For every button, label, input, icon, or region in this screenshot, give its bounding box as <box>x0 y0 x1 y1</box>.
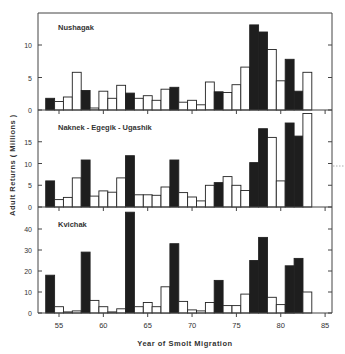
bar-74 <box>223 306 232 313</box>
bar-68 <box>170 160 179 207</box>
bar-57 <box>72 178 81 207</box>
bar-69 <box>179 102 188 110</box>
bar-81 <box>285 59 294 110</box>
bar-81 <box>285 266 294 313</box>
y-tick-label: 0 <box>28 107 32 114</box>
bar-74 <box>223 177 232 207</box>
y-tick-label: 15 <box>24 139 32 146</box>
bar-69 <box>179 193 188 207</box>
bar-62 <box>117 309 126 313</box>
panel-title: Naknek - Egegik - Ugashik <box>58 123 153 132</box>
bar-76 <box>241 67 250 110</box>
y-tick-label: 10 <box>24 161 32 168</box>
bar-78 <box>259 237 268 313</box>
bar-75 <box>232 85 241 110</box>
x-tick-label: 60 <box>99 321 107 330</box>
bar-82 <box>294 136 303 207</box>
x-tick-label: 80 <box>277 321 285 330</box>
panel-title: Kvichak <box>58 220 88 229</box>
bar-59 <box>90 196 99 207</box>
bar-67 <box>161 287 170 313</box>
bar-59 <box>90 300 99 313</box>
y-tick-label: 40 <box>24 226 32 233</box>
bar-54 <box>46 181 55 207</box>
bar-62 <box>117 178 126 207</box>
bar-61 <box>108 98 117 110</box>
bar-60 <box>99 91 108 110</box>
bar-69 <box>179 301 188 313</box>
bar-76 <box>241 191 250 208</box>
bar-77 <box>250 25 259 110</box>
bar-73 <box>214 183 223 207</box>
bar-77 <box>250 163 259 207</box>
bar-66 <box>152 307 161 313</box>
y-tick-label: 0 <box>28 310 32 317</box>
x-tick-label: 55 <box>55 321 63 330</box>
bar-82 <box>294 91 303 110</box>
bar-54 <box>46 98 55 110</box>
x-tick-label: 65 <box>144 321 152 330</box>
bar-71 <box>197 105 206 110</box>
bar-78 <box>259 32 268 110</box>
bar-65 <box>143 303 152 314</box>
bar-79 <box>267 50 276 111</box>
bar-75 <box>232 185 241 207</box>
bar-63 <box>126 156 135 207</box>
bar-80 <box>276 181 285 207</box>
bar-73 <box>214 92 223 110</box>
bar-67 <box>161 187 170 207</box>
chart-canvas: 0510Nushagak051015Naknek - Egegik - Ugas… <box>0 0 345 354</box>
bar-70 <box>188 197 197 207</box>
bar-72 <box>205 185 214 207</box>
bar-66 <box>152 195 161 207</box>
bar-72 <box>205 303 214 314</box>
bar-73 <box>214 280 223 313</box>
bar-83 <box>303 292 312 313</box>
bar-56 <box>63 197 72 207</box>
y-tick-label: 20 <box>24 268 32 275</box>
bar-64 <box>134 98 143 110</box>
bar-78 <box>259 129 268 207</box>
bar-67 <box>161 89 170 110</box>
bar-61 <box>108 192 117 207</box>
bar-55 <box>55 307 64 313</box>
bar-79 <box>267 297 276 313</box>
bar-65 <box>143 195 152 207</box>
bar-54 <box>46 275 55 313</box>
bar-75 <box>232 306 241 313</box>
panel-title: Nushagak <box>58 23 95 32</box>
bar-80 <box>276 305 285 313</box>
bar-58 <box>81 160 90 207</box>
bar-58 <box>81 252 90 313</box>
bar-64 <box>134 307 143 313</box>
bar-65 <box>143 96 152 110</box>
smolt-returns-chart: 0510Nushagak051015Naknek - Egegik - Ugas… <box>0 0 345 354</box>
bar-60 <box>99 191 108 207</box>
y-tick-label: 5 <box>28 75 32 82</box>
bar-83 <box>303 114 312 208</box>
bar-55 <box>55 102 64 111</box>
bar-70 <box>188 100 197 110</box>
y-tick-label: 0 <box>28 204 32 211</box>
bar-66 <box>152 100 161 110</box>
bar-72 <box>205 82 214 110</box>
bar-77 <box>250 261 259 314</box>
bar-80 <box>276 81 285 110</box>
x-tick-label: 85 <box>321 321 329 330</box>
y-tick-label: 30 <box>24 247 32 254</box>
y-tick-label: 10 <box>24 289 32 296</box>
bar-76 <box>241 294 250 313</box>
x-tick-label: 70 <box>188 321 196 330</box>
x-tick-label: 75 <box>232 321 240 330</box>
bar-68 <box>170 244 179 313</box>
bar-71 <box>197 201 206 207</box>
y-axis-label: Adult Returns ( Millions ) <box>8 114 17 216</box>
bar-81 <box>285 123 294 207</box>
bar-60 <box>99 307 108 313</box>
bar-68 <box>170 87 179 110</box>
x-axis-label: Year of Smolt Migration <box>137 339 232 348</box>
bar-82 <box>294 258 303 313</box>
bar-63 <box>126 93 135 110</box>
bar-79 <box>267 137 276 207</box>
bar-55 <box>55 200 64 207</box>
